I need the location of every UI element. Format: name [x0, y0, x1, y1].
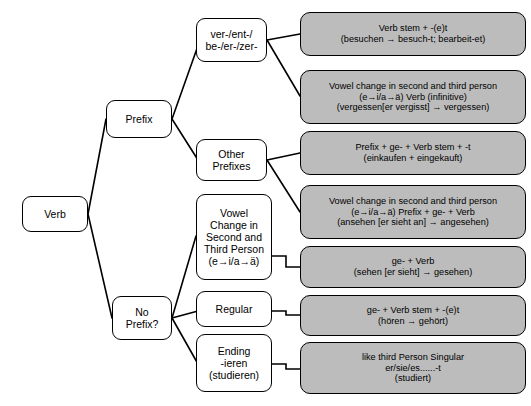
- node-inseparable-prefixes-label: ver-/ent-/ be-/er-/zer-: [203, 28, 261, 52]
- edge-inseparable-rule1: [267, 34, 300, 40]
- node-other-prefixes-label: Other Prefixes: [210, 148, 254, 172]
- node-verb-label: Verb: [41, 208, 69, 220]
- edge-verb-no-prefix: [88, 214, 112, 318]
- edge-noprefix-vowelchange: [172, 236, 196, 318]
- edge-regular-rule: [272, 311, 300, 315]
- edge-inseparable-rule2: [267, 40, 300, 96]
- node-no-prefix-label: No Prefix?: [123, 306, 162, 330]
- rule-ieren-third-person[interactable]: like third Person Singular er/sie/es....…: [300, 342, 526, 394]
- rule-ge-verb-stem-et[interactable]: ge- + Verb stem + -(e)t (hören → gehört): [300, 295, 526, 336]
- rule-vowel-change-prefix-ge-label: Vowel change in second and third person …: [324, 196, 502, 228]
- edge-prefix-other: [172, 119, 198, 160]
- node-ending-ieren[interactable]: Ending -ieren (studieren): [196, 334, 272, 392]
- node-vowel-change[interactable]: Vowel Change in Second and Third Person …: [196, 194, 272, 280]
- node-regular-label: Regular: [213, 303, 256, 315]
- rule-ge-verb-label: ge- + Verb (sehen [er sieht] → gesehen): [349, 256, 477, 277]
- node-prefix-label: Prefix: [123, 113, 156, 125]
- rule-verb-stem-et-label: Verb stem + -(e)t (besuchen → besuch-t; …: [336, 23, 491, 44]
- rule-ge-verb[interactable]: ge- + Verb (sehen [er sieht] → gesehen): [300, 246, 526, 288]
- node-inseparable-prefixes[interactable]: ver-/ent-/ be-/er-/zer-: [196, 18, 267, 62]
- node-prefix[interactable]: Prefix: [106, 100, 172, 138]
- edge-other-rule1: [267, 153, 300, 160]
- edge-verb-prefix: [88, 119, 106, 214]
- edge-vowelchange-rule: [272, 256, 300, 267]
- rule-verb-stem-et[interactable]: Verb stem + -(e)t (besuchen → besuch-t; …: [300, 12, 526, 56]
- edge-ieren-rule: [272, 364, 300, 369]
- rule-prefix-ge-stem-t-label: Prefix + ge- + Verb stem + -t (einkaufen…: [350, 142, 475, 163]
- rule-vowel-change-prefix-ge[interactable]: Vowel change in second and third person …: [300, 185, 526, 239]
- rule-ieren-third-person-label: like third Person Singular er/sie/es....…: [357, 352, 469, 384]
- node-regular[interactable]: Regular: [196, 291, 272, 327]
- node-vowel-change-label: Vowel Change in Second and Third Person …: [201, 207, 267, 268]
- node-other-prefixes[interactable]: Other Prefixes: [196, 139, 267, 181]
- edge-noprefix-ieren: [172, 318, 198, 364]
- rule-vowel-change-infinitive-label: Vowel change in second and third person …: [324, 81, 502, 113]
- node-ending-ieren-label: Ending -ieren (studieren): [206, 345, 262, 382]
- edge-noprefix-regular: [172, 311, 198, 318]
- node-no-prefix[interactable]: No Prefix?: [112, 296, 172, 340]
- rule-vowel-change-infinitive[interactable]: Vowel change in second and third person …: [300, 70, 526, 124]
- verb-classification-diagram: Verb Prefix No Prefix? ver-/ent-/ be-/er…: [0, 0, 531, 406]
- rule-ge-verb-stem-et-label: ge- + Verb stem + -(e)t (hören → gehört): [362, 305, 464, 326]
- rule-prefix-ge-stem-t[interactable]: Prefix + ge- + Verb stem + -t (einkaufen…: [300, 131, 526, 175]
- node-verb[interactable]: Verb: [22, 196, 88, 232]
